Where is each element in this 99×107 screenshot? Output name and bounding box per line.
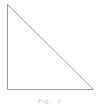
figure-container: Fig.1 [0, 0, 99, 107]
diagram-background [0, 0, 99, 99]
figure-caption: Fig.1 [0, 95, 99, 107]
caption-label: Fig. [38, 97, 50, 105]
caption-number: 1 [57, 97, 61, 105]
triangle-diagram [0, 0, 99, 99]
